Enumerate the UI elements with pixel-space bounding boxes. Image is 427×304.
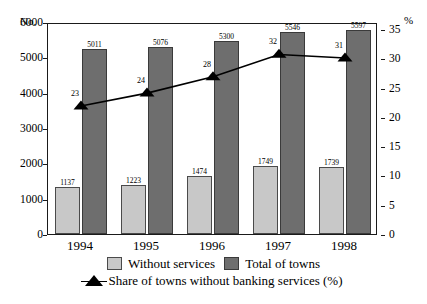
legend-label-total-of-towns: Total of towns (245, 256, 320, 271)
x-tick-label: 1996 (179, 238, 245, 256)
left-y-tick-mark (43, 235, 47, 236)
right-y-tick-label: 35 (389, 24, 419, 36)
left-y-tick-label: 2000 (3, 158, 43, 170)
right-y-tick-mark (381, 30, 385, 31)
left-y-tick-label: 4000 (3, 88, 43, 100)
line-value-label: 31 (325, 42, 343, 50)
legend-swatch-dark (224, 257, 239, 270)
line-value-label: 28 (193, 61, 211, 69)
plot-inner: 1137501112235076147453001749554617395597… (48, 24, 376, 234)
legend-item-share-pct: Share of towns without banking services … (85, 273, 343, 288)
x-axis-labels: 19941995199619971998 (47, 238, 377, 256)
right-y-axis: 35302520151050 (381, 23, 421, 235)
x-tick-label: 1997 (245, 238, 311, 256)
left-y-axis: 6000500040003000200010000 (0, 23, 43, 235)
right-y-tick-mark (381, 89, 385, 90)
legend-item-without-services: Without services (107, 256, 215, 271)
legend-triangle-marker-icon (85, 275, 103, 286)
right-y-tick-mark (381, 59, 385, 60)
right-y-tick-mark (381, 176, 385, 177)
left-y-tick-label: 5000 (3, 52, 43, 64)
right-y-tick-label: 30 (389, 53, 419, 65)
right-y-tick-label: 10 (389, 170, 419, 182)
legend-label-without-services: Without services (128, 256, 215, 271)
line-series-overlay (48, 24, 378, 236)
right-y-tick-label: 0 (389, 229, 419, 241)
legend-swatch-light (107, 257, 122, 270)
line-marker-triangle-icon (272, 49, 287, 58)
right-y-tick-mark (381, 118, 385, 119)
legend-label-share-pct: Share of towns without banking services … (109, 273, 343, 288)
plot-area: 1137501112235076147453001749554617395597… (47, 23, 377, 235)
right-y-tick-mark (381, 147, 385, 148)
right-y-tick-mark (381, 235, 385, 236)
right-y-tick-label: 20 (389, 112, 419, 124)
right-y-tick-mark (381, 206, 385, 207)
combo-chart: No. % 6000500040003000200010000 35302520… (0, 0, 427, 304)
line-value-label: 24 (127, 77, 145, 85)
left-y-tick-label: 0 (3, 229, 43, 241)
legend-item-total-of-towns: Total of towns (224, 256, 320, 271)
x-tick-label: 1995 (113, 238, 179, 256)
x-tick-label: 1994 (47, 238, 113, 256)
left-y-tick-label: 1000 (3, 194, 43, 206)
right-y-tick-label: 15 (389, 141, 419, 153)
chart-legend: Without services Total of towns Share of… (0, 256, 427, 288)
line-value-label: 23 (61, 90, 79, 98)
x-tick-label: 1998 (311, 238, 377, 256)
left-y-tick-label: 6000 (3, 17, 43, 29)
right-y-tick-label: 25 (389, 83, 419, 95)
right-y-tick-label: 5 (389, 200, 419, 212)
left-y-tick-label: 3000 (3, 123, 43, 135)
share-pct-line (81, 54, 345, 106)
line-value-label: 32 (259, 38, 277, 46)
